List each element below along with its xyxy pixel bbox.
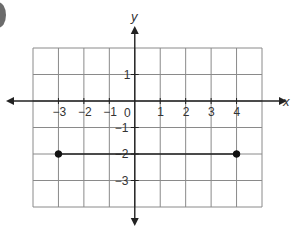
y-axis-label: y (130, 9, 139, 24)
y-tick-label: −1 (115, 121, 129, 135)
axes (6, 26, 287, 226)
x-tick-label: 1 (157, 105, 164, 119)
x-tick-label: −2 (78, 105, 92, 119)
x-axis-label: x (282, 94, 290, 109)
coordinate-plane: −3−2−112341−1−2−3 x y 0 (0, 0, 297, 234)
x-tick-label: −1 (103, 105, 117, 119)
arrow-up-icon (131, 26, 139, 34)
y-tick-label: 1 (124, 68, 131, 82)
x-tick-label: −3 (52, 105, 66, 119)
x-tick-label: 3 (208, 105, 215, 119)
origin-label: 0 (124, 106, 131, 120)
point-marker (55, 151, 62, 158)
grid (33, 48, 262, 207)
y-tick-label: −3 (115, 174, 129, 188)
arrow-down-icon (131, 218, 139, 226)
x-tick-label: 4 (234, 105, 241, 119)
arrow-left-icon (6, 97, 14, 105)
point-marker (233, 151, 240, 158)
x-tick-label: 2 (183, 105, 190, 119)
